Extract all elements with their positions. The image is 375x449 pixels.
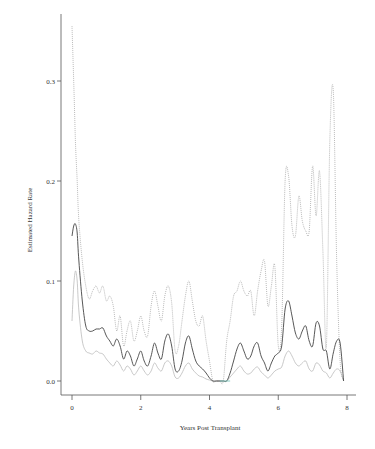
plot-lines [72, 26, 344, 384]
x-tick-label: 0 [70, 404, 74, 412]
x-tick-label: 6 [277, 404, 281, 412]
y-tick-label: 0.0 [46, 378, 55, 386]
y-axis-title: Estimated Hazard Rate [26, 188, 34, 253]
series-line-lower-bound [72, 271, 344, 381]
x-tick-label: 4 [208, 404, 212, 412]
y-tick-label: 0.2 [46, 178, 55, 186]
x-tick-label: 8 [345, 404, 349, 412]
y-tick-label: 0.3 [46, 78, 55, 86]
x-tick-label: 2 [139, 404, 143, 412]
y-axis-ticks: 0.00.10.20.3 [46, 78, 61, 386]
y-tick-label: 0.1 [46, 278, 55, 286]
x-axis-ticks: 02468 [70, 395, 349, 412]
hazard-rate-chart: 0.00.10.20.3 02468 Years Post Transplant… [0, 0, 375, 449]
x-axis-title: Years Post Transplant [180, 424, 241, 432]
